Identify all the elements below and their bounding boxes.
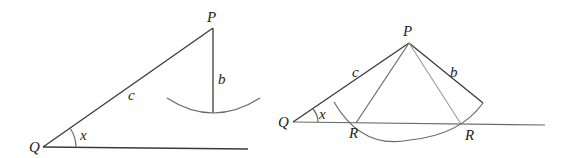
right-label-x: x xyxy=(318,106,326,122)
left-angle-x-arc xyxy=(70,128,76,147)
right-label-c: c xyxy=(352,64,359,80)
left-figure: P b c x Q xyxy=(29,9,260,155)
right-label-b: b xyxy=(450,64,458,80)
right-label-Q: Q xyxy=(278,114,289,130)
left-label-P: P xyxy=(206,9,216,25)
right-side-c xyxy=(293,43,409,122)
right-label-R2: R xyxy=(464,127,474,143)
left-label-x: x xyxy=(79,127,87,143)
left-base-line xyxy=(43,147,248,149)
right-side-b xyxy=(409,43,483,103)
left-label-b: b xyxy=(218,71,226,87)
left-label-Q: Q xyxy=(29,139,40,155)
right-base-line xyxy=(293,122,545,125)
right-label-R1: R xyxy=(348,125,358,141)
right-segment-PR2 xyxy=(409,43,461,124)
right-figure: P c b x Q R R xyxy=(278,23,545,143)
triangle-ambiguous-case-diagram: P b c x Q P c b x Q R R xyxy=(0,0,572,158)
right-label-P: P xyxy=(402,23,412,39)
right-segment-PR1 xyxy=(356,43,409,123)
left-label-c: c xyxy=(128,87,135,103)
diagram-canvas: P b c x Q P c b x Q R R xyxy=(0,0,572,158)
right-angle-x-arc xyxy=(313,109,318,122)
